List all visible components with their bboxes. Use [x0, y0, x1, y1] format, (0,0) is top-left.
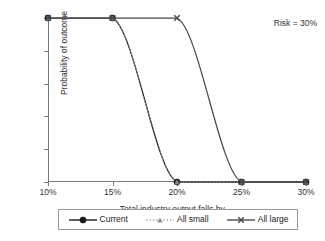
x-tick-label: 30% — [286, 188, 325, 197]
x-tick-mark — [48, 182, 49, 186]
legend-entry-current[interactable]: Current — [68, 214, 128, 226]
series-current — [45, 15, 309, 185]
x-tick-mark — [113, 182, 114, 186]
legend-label: Current — [100, 215, 128, 224]
data-point-marker — [157, 217, 162, 222]
plot-area: Probability of outcome Total industry ou… — [48, 18, 306, 182]
series-all-large — [45, 15, 308, 184]
chart-figure: Risk = 30% Probability of outcome Total … — [0, 0, 325, 241]
legend-swatch-x-cross — [226, 214, 256, 226]
legend-label: All large — [258, 215, 289, 224]
series-all-small — [45, 15, 308, 184]
series-line — [48, 18, 306, 182]
series-line — [48, 18, 306, 182]
data-point-marker — [79, 216, 85, 222]
data-series-layer — [48, 18, 306, 182]
legend-swatch-filled-circle — [68, 214, 98, 226]
legend-label: All small — [177, 215, 209, 224]
x-tick-label: 10% — [28, 188, 68, 197]
x-tick-label: 25% — [222, 188, 262, 197]
series-line — [48, 18, 306, 182]
chart-legend: CurrentAll smallAll large — [58, 209, 298, 230]
legend-swatch-triangle — [145, 214, 175, 226]
legend-entry-all-large[interactable]: All large — [226, 214, 289, 226]
legend-entry-all-small[interactable]: All small — [145, 214, 209, 226]
x-tick-label: 20% — [157, 188, 197, 197]
x-tick-label: 15% — [93, 188, 133, 197]
